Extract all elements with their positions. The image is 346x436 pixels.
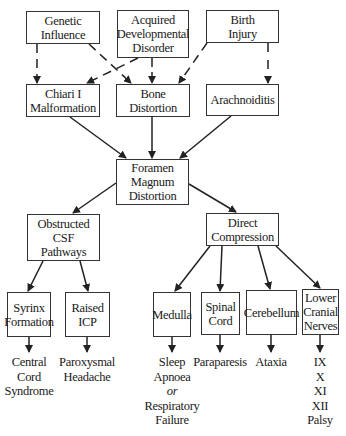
- node-text: Distortion: [129, 101, 177, 115]
- outcome-ataxia: Ataxia: [250, 355, 292, 370]
- node-text: Acquired: [117, 13, 189, 27]
- node-acquired-developmental-disorder: AcquiredDevelopmentalDisorder: [117, 10, 189, 58]
- node-text: Arachnoiditis: [210, 93, 274, 107]
- outcome-text: IX: [300, 355, 340, 370]
- edge-acquired-chiari: [87, 58, 138, 83]
- outcome-text: Ataxia: [250, 355, 292, 370]
- node-text: Bone: [129, 87, 177, 101]
- node-text: Genetic: [41, 14, 86, 28]
- outcome-text: Palsy: [300, 413, 340, 428]
- outcome-text: Failure: [142, 413, 202, 428]
- node-text: ICP: [71, 315, 103, 329]
- edge-direct-cerebellum: [258, 246, 270, 289]
- outcome-text: Central: [0, 355, 58, 370]
- node-spinal-cord: SpinalCord: [201, 292, 240, 335]
- node-text: Nerves: [303, 319, 338, 333]
- outcome-text: Headache: [58, 370, 116, 385]
- node-text: Compression: [211, 230, 274, 244]
- edge-foramen-direct: [189, 184, 236, 212]
- node-text: Spinal: [205, 300, 235, 314]
- outcome-text: Apnoea: [142, 370, 202, 385]
- outcome-text: X: [300, 370, 340, 385]
- outcome-text: Syndrome: [0, 384, 58, 399]
- edge-obstructed-syrinx: [28, 261, 43, 291]
- node-text: CSF: [38, 231, 90, 245]
- node-text: Foramen: [129, 161, 177, 175]
- node-genetic-influence: GeneticInfluence: [26, 11, 100, 44]
- outcome-text: Cord: [0, 370, 58, 385]
- edge-direct-medulla: [175, 246, 210, 291]
- node-text: Pathways: [38, 245, 90, 259]
- outcome-text: XI: [300, 384, 340, 399]
- node-text: Malformation: [30, 101, 96, 115]
- edge-direct-cranial: [276, 246, 320, 288]
- node-syrinx-formation: SyrinxFormation: [7, 292, 51, 337]
- node-chiari-malformation: Chiari IMalformation: [26, 84, 100, 117]
- node-foramen-magnum-distortion: ForamenMagnumDistortion: [116, 159, 189, 205]
- node-text: Distortion: [129, 189, 177, 203]
- node-text: Formation: [4, 315, 53, 329]
- node-text: Cerebellum: [244, 306, 299, 320]
- node-text: Direct: [211, 216, 274, 230]
- node-text: Developmental: [117, 27, 189, 41]
- node-raised-icp: RaisedICP: [65, 292, 110, 337]
- outcome-central-cord-syndrome: CentralCordSyndrome: [0, 355, 58, 399]
- node-text: Birth: [228, 13, 257, 27]
- node-text: Lower: [303, 291, 338, 305]
- node-text: Magnum: [129, 175, 177, 189]
- node-arachnoiditis: Arachnoiditis: [206, 84, 279, 116]
- node-obstructed-csf-pathways: ObstructedCSFPathways: [27, 214, 100, 261]
- node-text: Influence: [41, 28, 86, 42]
- node-birth-injury: BirthInjury: [206, 10, 279, 43]
- node-text: Raised: [71, 301, 103, 315]
- outcome-text: Paroxysmal: [58, 355, 116, 370]
- edge-foramen-obstructed: [73, 183, 116, 213]
- outcome-text: Paraparesis: [192, 355, 248, 370]
- node-bone-distortion: BoneDistortion: [116, 84, 190, 117]
- node-direct-compression: DirectCompression: [206, 213, 279, 246]
- node-lower-cranial-nerves: LowerCranialNerves: [302, 289, 339, 335]
- node-text: Cranial: [303, 305, 338, 319]
- node-medulla: Medulla: [153, 292, 191, 337]
- node-text: Medulla: [152, 308, 192, 322]
- node-text: Cord: [205, 314, 235, 328]
- node-text: Obstructed: [38, 217, 90, 231]
- outcome-text: Respiratory: [142, 399, 202, 414]
- outcome-paraparesis: Paraparesis: [192, 355, 248, 370]
- edge-chiari-foramen: [70, 117, 126, 158]
- edge-direct-spinal: [220, 246, 222, 291]
- edge-arachnoiditis-foramen: [180, 116, 231, 158]
- outcome-text: or: [142, 384, 202, 399]
- node-text: Chiari I: [30, 87, 96, 101]
- node-text: Syrinx: [4, 301, 53, 315]
- node-text: Injury: [228, 27, 257, 41]
- outcome-cranial-nerve-palsy: IXXXIXIIPalsy: [300, 355, 340, 428]
- node-cerebellum: Cerebellum: [246, 290, 297, 335]
- node-text: Disorder: [117, 41, 189, 55]
- edge-obstructed-icp: [80, 261, 88, 291]
- outcome-paroxysmal-headache: ParoxysmalHeadache: [58, 355, 116, 384]
- outcome-text: XII: [300, 399, 340, 414]
